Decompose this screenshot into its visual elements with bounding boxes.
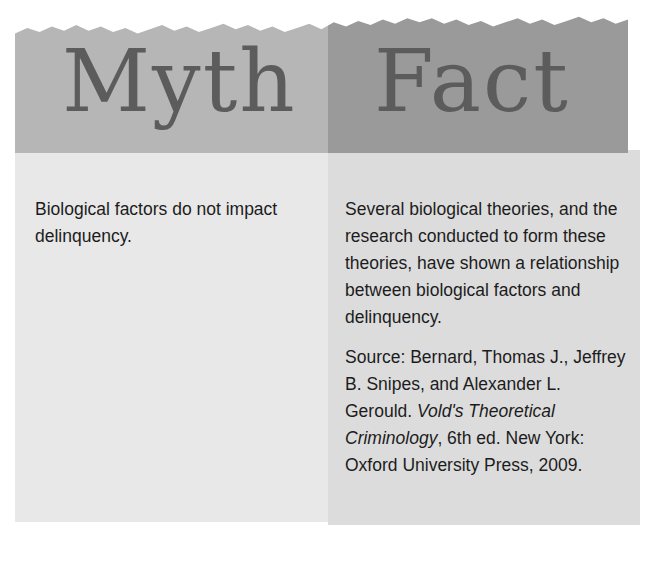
myth-heading: Myth xyxy=(62,38,297,124)
myth-text-column: Biological factors do not impact delinqu… xyxy=(35,196,320,250)
fact-heading: Fact xyxy=(374,38,570,124)
fact-source-citation: Source: Bernard, Thomas J., Jeffrey B. S… xyxy=(345,344,628,479)
fact-text-column: Several biological theories, and the res… xyxy=(345,196,628,479)
fact-statement: Several biological theories, and the res… xyxy=(345,196,628,331)
source-label: Source: xyxy=(345,347,405,367)
myth-fact-figure: Myth Fact Biological factors do not impa… xyxy=(0,0,669,562)
myth-statement: Biological factors do not impact delinqu… xyxy=(35,196,320,250)
